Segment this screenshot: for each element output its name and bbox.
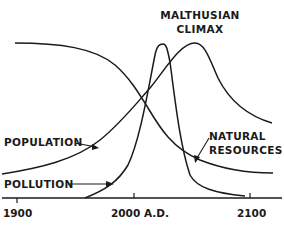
climax-label-line2: CLIMAX xyxy=(160,24,240,35)
pollution-curve xyxy=(85,44,245,198)
x-tick-label-2000: 2000 A.D. xyxy=(111,207,169,219)
x-tick-label-1900: 1900 xyxy=(3,207,32,219)
pollution-label: POLLUTION xyxy=(4,179,74,190)
chart-plot-area xyxy=(0,0,284,232)
natural-resources-label-line2: RESOURCES xyxy=(209,145,283,156)
malthusian-chart: MALTHUSIAN CLIMAX POPULATION POLLUTION N… xyxy=(0,0,284,232)
natural-resources-label-line1: NATURAL xyxy=(209,131,266,142)
pollution-arrowhead-icon xyxy=(106,181,114,187)
x-tick-label-2100: 2100 xyxy=(237,207,266,219)
climax-label-line1: MALTHUSIAN xyxy=(160,10,240,21)
population-arrowhead-icon xyxy=(92,144,99,150)
natural-resources-arrow xyxy=(197,138,209,158)
population-label: POPULATION xyxy=(4,137,83,148)
